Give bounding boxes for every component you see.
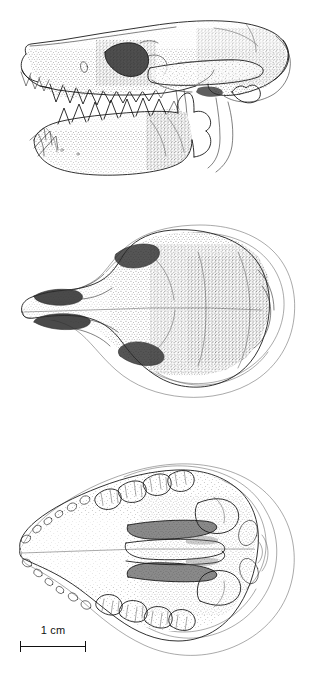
scale-bar: 1 cm [14, 624, 92, 658]
lateral-mandible [30, 93, 211, 178]
panel-lateral-view [0, 0, 309, 200]
panel-dorsal-view [0, 200, 309, 425]
scale-bar-cap-right [85, 641, 86, 652]
dorsal-cranium [18, 228, 278, 387]
scale-bar-line [20, 646, 86, 647]
figure-plate: 1 cm [0, 0, 309, 678]
scale-bar-rule [14, 641, 92, 652]
scale-bar-label: 1 cm [14, 624, 92, 637]
ventral-cranium [16, 465, 268, 641]
